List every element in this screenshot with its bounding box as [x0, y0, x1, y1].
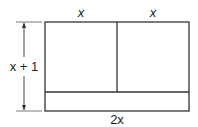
label-top-right: x [149, 5, 157, 20]
label-height: x + 1 [10, 59, 39, 74]
arrow-up-icon [22, 22, 26, 28]
area-diagram: x x x + 1 2x [0, 0, 198, 127]
label-bottom: 2x [110, 112, 124, 127]
arrow-down-icon [22, 105, 26, 111]
label-top-left: x [77, 5, 85, 20]
